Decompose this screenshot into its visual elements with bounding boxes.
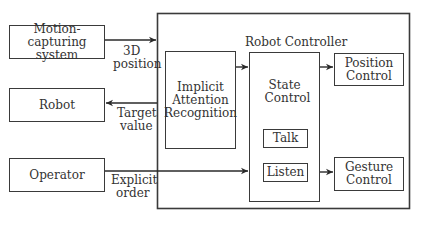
node-label: Gesture Control — [344, 161, 394, 187]
node-label: Implicit Attention Recognition — [164, 81, 237, 120]
implicit-attention-recognition-node: Implicit Attention Recognition — [165, 51, 236, 149]
node-label: Talk — [273, 132, 298, 145]
motion-capturing-system-node: Motion-capturing system — [9, 25, 105, 59]
node-label: Position Control — [344, 57, 394, 83]
node-label: Motion-capturing system — [10, 23, 104, 62]
talk-node: Talk — [263, 129, 308, 148]
node-label: Robot — [39, 99, 75, 112]
node-label: Listen — [267, 166, 305, 179]
robot-controller-title: Robot Controller — [245, 36, 347, 49]
edge-label-position: position — [113, 58, 162, 71]
node-label: State Control — [265, 79, 305, 105]
listen-node: Listen — [263, 163, 308, 182]
edge-label-value: value — [120, 120, 153, 133]
edge-label-order: order — [116, 187, 149, 200]
operator-node: Operator — [9, 158, 105, 192]
position-control-node: Position Control — [334, 53, 404, 86]
gesture-control-node: Gesture Control — [334, 157, 404, 191]
node-label: Operator — [29, 169, 84, 182]
robot-node: Robot — [9, 88, 105, 122]
